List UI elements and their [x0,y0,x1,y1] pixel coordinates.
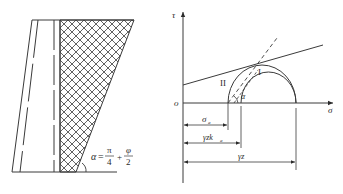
dim-gz-label: γz [238,152,245,161]
circle-II-label: II [220,78,226,88]
angle-arc [82,163,86,172]
formula-alpha: α [91,151,97,162]
formula-2: 2 [126,157,131,167]
angle-formula: α = π 4 + φ 2 [91,145,133,167]
sigma-axis-label: σ [328,105,333,115]
circle-I-label: I [258,67,261,77]
formula-phi: φ [126,145,131,155]
sliding-soil-wedge [60,20,134,172]
formula-plus: + [117,152,122,162]
tau-axis-label: τ [172,10,176,20]
origin-label: o [174,98,179,108]
alpha-label: α [241,92,246,101]
dim-sigma-a-sub: a [208,120,211,125]
formula-pi: π [107,145,112,155]
mohr-circle-I [241,72,296,103]
formula-equals: = [98,151,104,162]
retaining-wall-figure: α = π 4 + φ 2 [12,20,134,172]
strength-envelope [183,45,323,85]
dim-sigma-a-label: σ [202,114,207,124]
formula-4: 4 [107,157,112,167]
failure-plane-line-2 [234,70,258,103]
dim-gzka-sub: a [220,138,223,143]
diagram-canvas: α = π 4 + φ 2 τ σ o α I II [0,0,343,194]
dim-gzka-label: γzk [203,133,213,142]
mohr-circle-figure: τ σ o α I II σ a γzk a γz [172,10,333,183]
